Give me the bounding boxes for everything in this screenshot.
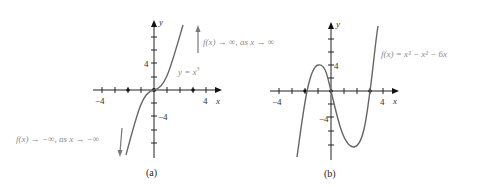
tick-label-pos4: 4 [203,96,208,106]
y-axis-label: y [335,19,340,29]
x-axis-arrow-icon [215,87,222,93]
tick-label-neg4: −4 [95,96,105,106]
caption-a: (a) [146,167,157,179]
arrow-down-icon [118,150,123,157]
panel-a: y x −4 4 4 −4 y = x3 f(x) → ∞, as x → ∞ … [16,17,274,179]
curve-label: y = x3 [177,66,200,77]
curve-label: f(x) = x³ − x² − 6x [381,49,447,59]
ytick-label-pos4: 4 [144,59,149,69]
x-axis-label: x [392,96,397,106]
caption-b: (b) [324,168,336,180]
ytick-label-neg4: −4 [158,112,168,122]
x-axis-label: x [215,96,220,106]
tick-label-pos4: 4 [380,97,385,107]
panel-b: y x −4 4 4 −4 f(x) = x³ − x² − 6x (b) [270,19,447,180]
figure: y x −4 4 4 −4 y = x3 f(x) → ∞, as x → ∞ … [0,0,484,187]
y-axis-arrow-icon [328,22,334,29]
annotation-top: f(x) → ∞, as x → ∞ [203,37,274,47]
arrow-up-icon [196,25,201,32]
x-axis-arrow-icon [392,88,399,94]
annotation-bottom: f(x) → −∞, as x → −∞ [16,134,99,144]
tick-label-neg4: −4 [272,97,282,107]
ytick-label-pos4: 4 [334,61,339,71]
y-axis-label: y [158,17,163,27]
ytick-label-neg4: −4 [319,114,329,124]
y-axis-arrow-icon [151,20,157,27]
